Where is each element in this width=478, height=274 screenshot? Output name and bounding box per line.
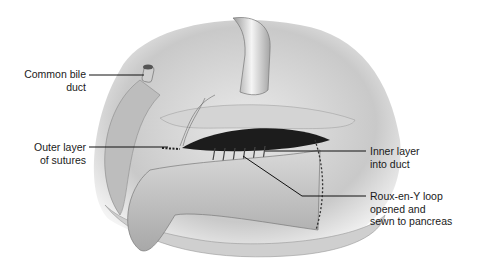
label-line: Roux-en-Y loop bbox=[370, 190, 475, 203]
label-line: sewn to pancreas bbox=[370, 215, 475, 228]
label-roux-loop: Roux-en-Y loop opened and sewn to pancre… bbox=[370, 190, 475, 228]
label-inner-layer: Inner layer into duct bbox=[370, 145, 470, 170]
surgical-illustration: Common bile duct Outer layer of sutures … bbox=[0, 0, 478, 274]
label-common-bile-duct: Common bile duct bbox=[10, 68, 86, 93]
label-line: Outer layer bbox=[10, 141, 86, 154]
label-outer-layer: Outer layer of sutures bbox=[10, 141, 86, 166]
label-line: duct bbox=[10, 81, 86, 94]
label-line: Common bile bbox=[10, 68, 86, 81]
label-line: opened and bbox=[370, 203, 475, 216]
anatomy-drawing bbox=[0, 0, 478, 274]
label-line: into duct bbox=[370, 158, 470, 171]
label-line: Inner layer bbox=[370, 145, 470, 158]
label-line: of sutures bbox=[10, 154, 86, 167]
